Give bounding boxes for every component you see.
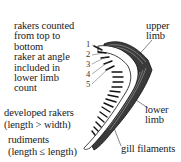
- counting-note-line: count: [14, 83, 74, 93]
- raker-number-5: 5: [86, 80, 90, 89]
- rudiments-definition: (length ≤ length): [8, 146, 77, 158]
- raker-number-4: 4: [86, 70, 90, 79]
- raker-number-1: 1: [86, 40, 90, 49]
- upper-limb-label: upper limb: [146, 21, 169, 42]
- raker-number-2: 2: [86, 50, 90, 59]
- counting-note: rakers counted from top to bottom raker …: [14, 21, 74, 94]
- developed-rakers-definition: (length > width): [4, 119, 74, 131]
- gill-filaments-label: gill filaments: [121, 144, 175, 154]
- gill-filaments-pointer: [114, 128, 121, 146]
- developed-rakers-label: developed rakers (length > width): [4, 107, 74, 131]
- lower-limb-label-line: limb: [145, 115, 168, 125]
- rudiments-title: rudiments: [8, 134, 77, 146]
- upper-limb-label-line: limb: [146, 31, 169, 41]
- rudiments-label: rudiments (length ≤ length): [8, 134, 77, 158]
- lower-limb-label: lower limb: [145, 105, 168, 126]
- raker-number-3: 3: [86, 60, 90, 69]
- developed-rakers-title: developed rakers: [4, 107, 74, 119]
